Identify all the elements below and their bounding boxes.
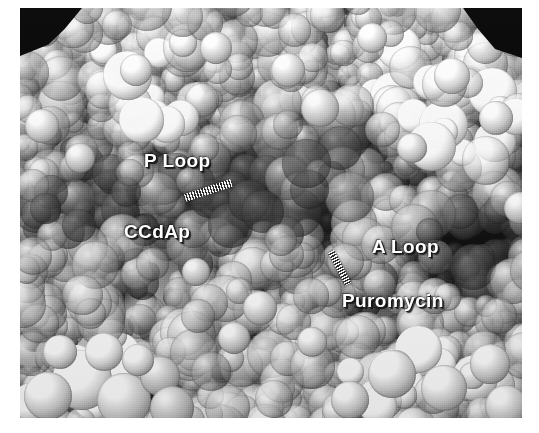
atom-sphere-highlight bbox=[470, 344, 510, 384]
atom-sphere bbox=[181, 299, 215, 333]
atom-sphere bbox=[136, 248, 168, 280]
atom-sphere bbox=[293, 278, 329, 314]
atom-sphere-highlight bbox=[397, 133, 427, 163]
atom-sphere bbox=[190, 133, 219, 162]
atom-sphere-highlight bbox=[368, 350, 416, 398]
atom-sphere bbox=[119, 97, 165, 143]
atom-sphere-highlight bbox=[122, 344, 154, 376]
atom-sphere-highlight bbox=[182, 258, 210, 286]
atom-sphere-highlight bbox=[25, 109, 59, 143]
atom-sphere bbox=[116, 159, 143, 186]
atom-sphere-highlight bbox=[120, 54, 152, 86]
atom-sphere bbox=[434, 283, 461, 310]
atom-sphere-highlight bbox=[200, 32, 232, 64]
figure-page: P Loop CCdAp A Loop Puromycin bbox=[0, 0, 539, 433]
atom-sphere bbox=[418, 240, 453, 275]
atom-sphere-highlight bbox=[434, 58, 470, 94]
atom-sphere-highlight bbox=[331, 381, 369, 418]
atom-sphere-highlight bbox=[271, 53, 305, 87]
atom-sphere bbox=[278, 13, 312, 47]
atom-sphere-highlight bbox=[24, 372, 72, 418]
atom-sphere-highlight bbox=[301, 89, 339, 127]
atom-sphere bbox=[325, 172, 374, 221]
atom-sphere-highlight bbox=[43, 335, 77, 369]
atom-sphere-highlight bbox=[85, 333, 123, 371]
atom-sphere-highlight bbox=[357, 23, 387, 53]
molecular-surface-figure: P Loop CCdAp A Loop Puromycin bbox=[20, 8, 522, 418]
atom-sphere bbox=[416, 218, 443, 245]
atom-sphere bbox=[265, 224, 297, 256]
atom-sphere-highlight bbox=[485, 385, 522, 418]
atom-sphere bbox=[481, 298, 517, 334]
atom-sphere bbox=[62, 275, 102, 315]
atom-sphere-highlight bbox=[421, 365, 467, 411]
atom-sphere bbox=[273, 110, 303, 140]
atom-sphere bbox=[219, 115, 257, 153]
atom-sphere bbox=[282, 139, 330, 187]
atom-sphere bbox=[62, 209, 96, 243]
atom-sphere-highlight bbox=[479, 101, 513, 135]
atom-sphere bbox=[191, 352, 231, 392]
atom-sphere-highlight bbox=[243, 291, 277, 325]
atom-sphere-highlight bbox=[65, 143, 95, 173]
atom-sphere bbox=[30, 193, 61, 224]
atom-sphere bbox=[363, 269, 396, 302]
atom-sphere-highlight bbox=[218, 322, 250, 354]
atom-sphere-highlight bbox=[297, 327, 327, 357]
atom-sphere bbox=[462, 136, 510, 184]
